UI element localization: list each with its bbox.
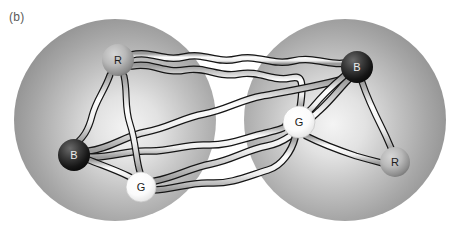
node-right-R-label: R [391,156,399,168]
node-right-G-label: G [295,116,304,128]
node-left-R[interactable]: R [102,44,134,76]
figure-canvas: R B G B G R [0,0,459,228]
panel-label: (b) [9,10,25,24]
node-right-G[interactable]: G [283,106,315,138]
node-right-B-label: B [353,61,360,73]
node-right-B[interactable]: B [341,51,373,83]
node-left-R-label: R [114,54,122,66]
right-sphere [244,19,446,221]
node-left-G[interactable]: G [126,172,156,202]
node-right-R[interactable]: R [380,147,410,177]
figure-panel: R B G B G R (b) [0,0,459,228]
node-left-G-label: G [137,181,146,193]
node-left-B[interactable]: B [58,139,90,171]
node-left-B-label: B [70,149,77,161]
